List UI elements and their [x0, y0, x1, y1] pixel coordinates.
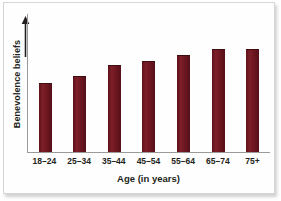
bar-group [28, 14, 270, 152]
plot-area [27, 14, 270, 153]
bar-slot [98, 14, 131, 152]
bar-slot [202, 14, 235, 152]
bar-slot [167, 14, 200, 152]
bar-slot [29, 14, 62, 152]
bar-25-34 [73, 76, 86, 152]
bar-slot [132, 14, 165, 152]
bar-65-74 [212, 49, 225, 153]
x-tick-label: 45–54 [132, 156, 165, 166]
x-axis-label: Age (in years) [27, 173, 270, 184]
x-tick-label: 25–34 [63, 156, 96, 166]
bar-35-44 [108, 65, 121, 152]
x-axis-tick-labels: 18–24 25–34 35–44 45–54 55–64 65–74 75+ [27, 156, 270, 166]
bar-45-54 [142, 61, 155, 152]
bar-chart-figure: Benevolence beliefs [0, 0, 281, 201]
y-axis-label: Benevolence beliefs [12, 40, 22, 128]
y-axis-label-wrapper: Benevolence beliefs [8, 14, 26, 154]
bar-75-plus [246, 49, 259, 153]
bar-55-64 [177, 55, 190, 152]
bar-18-24 [39, 83, 52, 152]
x-tick-label: 55–64 [167, 156, 200, 166]
x-tick-label: 35–44 [97, 156, 130, 166]
x-tick-label: 75+ [236, 156, 269, 166]
x-tick-label: 18–24 [28, 156, 61, 166]
bar-slot [63, 14, 96, 152]
x-tick-label: 65–74 [201, 156, 234, 166]
bar-slot [236, 14, 269, 152]
